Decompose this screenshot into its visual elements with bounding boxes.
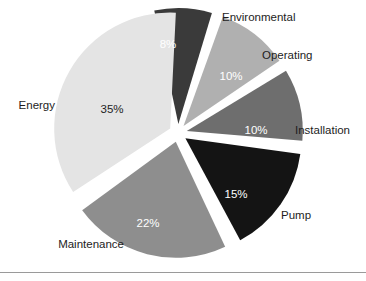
- pie-chart-svg: 8%10%10%15%22%35% EnvironmentalOperating…: [0, 0, 366, 281]
- pie-value-label-maintenance: 22%: [136, 217, 159, 229]
- pie-category-label-pump: Pump: [281, 209, 311, 221]
- pie-category-label-installation: Installation: [295, 124, 350, 136]
- pie-category-label-energy: Energy: [19, 99, 56, 111]
- pie-chart-figure: 8%10%10%15%22%35% EnvironmentalOperating…: [0, 0, 366, 281]
- pie-category-label-environmental: Environmental: [222, 11, 296, 23]
- pie-value-label-pump: 15%: [224, 188, 247, 200]
- pie-value-label-environmental: 8%: [160, 38, 177, 50]
- pie-value-label-installation: 10%: [244, 124, 267, 136]
- pie-category-label-maintenance: Maintenance: [58, 238, 124, 250]
- pie-value-label-operating: 10%: [219, 70, 242, 82]
- pie-category-label-operating: Operating: [262, 49, 313, 61]
- footer-divider: [0, 272, 366, 273]
- pie-value-label-energy: 35%: [100, 103, 123, 115]
